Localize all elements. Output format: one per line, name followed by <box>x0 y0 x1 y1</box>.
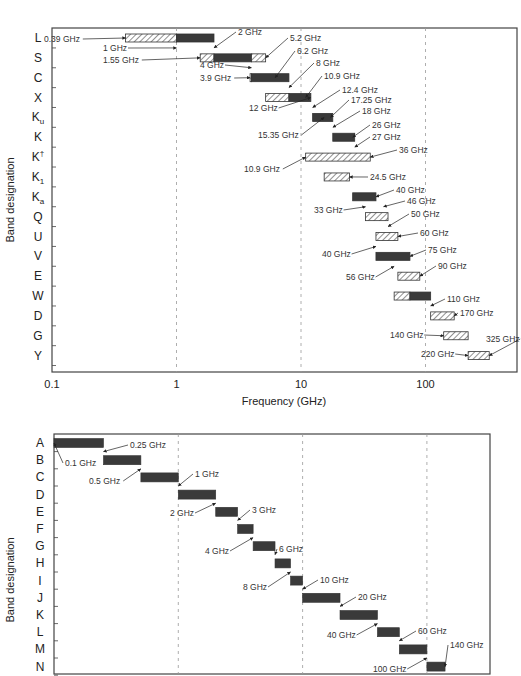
category-label: Y <box>34 349 42 363</box>
annotation-label: 36 GHz <box>399 145 428 155</box>
category-label: U <box>34 230 43 244</box>
category-label: X <box>34 91 42 105</box>
category-label: L <box>37 625 44 639</box>
annotation-label: 220 GHz <box>421 349 455 359</box>
category-label: G <box>33 329 42 343</box>
annotation-label: 40 GHz <box>327 630 356 640</box>
annotation-label: 18 GHz <box>362 106 391 116</box>
band-bar-c <box>141 473 178 482</box>
band-bar-y <box>468 352 489 360</box>
annotation-label: 75 GHz <box>428 245 457 255</box>
annotation-label: 50 GHz <box>411 209 440 219</box>
band-bar-l <box>126 34 177 42</box>
annotation-label: 20 GHz <box>358 592 387 602</box>
category-label: G <box>35 539 44 553</box>
top-chart: LSCXKuKK†K1KaQUVEWDGY0.1110100Frequency … <box>4 27 520 407</box>
category-label: N <box>36 660 45 674</box>
band-bar-e <box>216 507 238 516</box>
annotation-label: 0.39 GHz <box>44 34 80 44</box>
y-axis-title: Band designation <box>4 157 16 242</box>
category-label: A <box>36 436 44 450</box>
category-label: C <box>34 71 43 85</box>
band-bar-j <box>303 593 340 602</box>
category-label: K† <box>32 149 44 164</box>
band-bar-q <box>366 213 388 221</box>
annotation-label: 325 GHz <box>486 334 520 344</box>
annotation-label: 2 GHz <box>238 27 262 37</box>
band-bar-d <box>178 490 215 499</box>
category-label: K <box>34 130 42 144</box>
band-bar-a <box>54 439 103 448</box>
plot-frame <box>54 434 490 674</box>
annotation-label: 10.9 GHz <box>324 71 360 81</box>
annotation-label: 60 GHz <box>418 626 447 636</box>
annotation-label: 3 GHz <box>252 505 276 515</box>
category-label: V <box>34 249 42 263</box>
annotation-label: 12 GHz <box>249 103 278 113</box>
annotation-label: 15.35 GHz <box>258 130 299 140</box>
annotation-label: 60 GHz <box>420 228 449 238</box>
band-bar-ku <box>313 113 333 121</box>
band-bar-m <box>399 645 427 654</box>
category-label: D <box>36 488 45 502</box>
annotation-label: 8 GHz <box>316 58 340 68</box>
annotation-label: 4 GHz <box>200 60 224 70</box>
category-label: K <box>36 608 44 622</box>
annotation-label: 46 GHz <box>407 196 436 206</box>
band-bar-c <box>251 74 288 82</box>
annotation-label: 0.5 GHz <box>89 476 120 486</box>
category-label: W <box>32 289 44 303</box>
annotation-label: 10.9 GHz <box>244 164 280 174</box>
x-axis-title: Frequency (GHz) <box>242 395 326 407</box>
x-tick-label: 100 <box>416 378 434 390</box>
category-label: H <box>36 556 45 570</box>
annotation-label: 26 GHz <box>372 120 401 130</box>
annotation-label: 1 GHz <box>195 469 219 479</box>
annotation-label: 33 GHz <box>314 205 343 215</box>
category-label: Ka <box>32 190 45 206</box>
category-label: L <box>35 31 42 45</box>
category-label: Q <box>33 210 42 224</box>
x-tick-label: 10 <box>295 378 307 390</box>
annotation-label: 27 GHz <box>372 132 401 142</box>
band-bar-s <box>251 54 265 62</box>
band-bar-e <box>398 272 420 280</box>
annotation-label: 0.1 GHz <box>65 458 96 468</box>
band-bar-d <box>431 312 455 320</box>
annotation-label: 100 GHz <box>373 664 407 674</box>
annotation-label: 110 GHz <box>447 294 480 304</box>
annotation-label: 6 GHz <box>279 544 303 554</box>
annotation-label: 3.9 GHz <box>200 73 231 83</box>
band-bar-ka <box>353 193 376 201</box>
annotation-label: 90 GHz <box>438 261 467 271</box>
annotation-label: 2 GHz <box>170 508 194 518</box>
annotation-label: 8 GHz <box>243 582 267 592</box>
band-bar-g <box>444 332 468 340</box>
annotation-label: 56 GHz <box>346 272 375 282</box>
band-bar-n <box>427 662 445 671</box>
category-label: B <box>36 453 44 467</box>
category-label: S <box>34 51 42 65</box>
band-bar-h <box>275 559 291 568</box>
band-bar-b <box>103 456 140 465</box>
band-bar-k <box>333 133 355 141</box>
category-label: I <box>38 574 41 588</box>
annotation-label: 5.2 GHz <box>290 33 321 43</box>
annotation-label: 6.2 GHz <box>297 46 328 56</box>
annotation-label: 1.55 GHz <box>103 55 139 65</box>
category-label: M <box>35 642 45 656</box>
band-bar-k1 <box>324 173 349 181</box>
band-bar-i <box>291 576 303 585</box>
band-bar-k† <box>306 153 371 161</box>
annotation-label: 4 GHz <box>205 546 229 556</box>
annotation-label: 17.25 GHz <box>351 95 392 105</box>
category-label: E <box>34 269 42 283</box>
annotation-label: 10 GHz <box>320 575 349 585</box>
annotation-label: 24.5 GHz <box>370 172 406 182</box>
category-label: F <box>36 522 43 536</box>
annotation-label: 12.4 GHz <box>342 85 378 95</box>
frequency-band-charts: LSCXKuKK†K1KaQUVEWDGY0.1110100Frequency … <box>0 0 521 676</box>
band-bar-g <box>253 542 275 551</box>
band-bar-k <box>340 611 377 620</box>
band-bar-u <box>376 233 398 241</box>
